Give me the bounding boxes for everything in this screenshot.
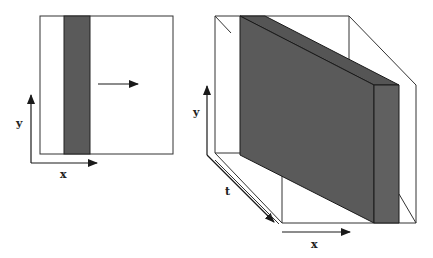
volume-corner-tick [215,16,231,33]
right-x-label: x [311,238,318,251]
left-panel [31,16,173,163]
spatial-frame [40,16,173,154]
right-panel [207,16,416,232]
right-y-label: y [192,106,200,119]
left-x-label: x [60,168,67,181]
volume-bottom-right-diag [399,194,416,223]
moving-bar [64,16,90,154]
slab-side-face [374,85,399,223]
right-t-label: t [225,185,231,198]
diagram-canvas: y x y t x [0,0,433,258]
left-y-label: y [15,117,23,130]
